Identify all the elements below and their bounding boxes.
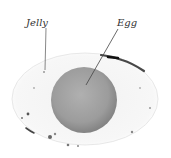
egg-label: Egg (117, 18, 137, 28)
egg-sphere (51, 67, 117, 133)
frog-egg-diagram: Jelly Egg (0, 0, 171, 158)
jelly-label: Jelly (26, 18, 48, 28)
